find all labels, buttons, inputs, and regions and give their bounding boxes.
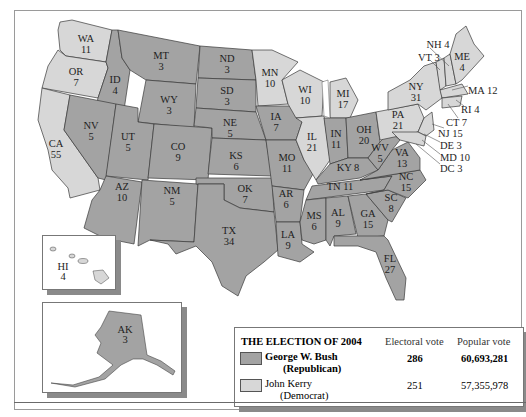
legend-col-popular: Popular vote bbox=[457, 336, 510, 347]
legend-title: THE ELECTION OF 2004 bbox=[241, 336, 362, 347]
election-legend: THE ELECTION OF 2004 Electoral vote Popu… bbox=[234, 327, 524, 407]
svg-text:AZ10: AZ10 bbox=[115, 181, 129, 203]
svg-text:CT 7: CT 7 bbox=[446, 117, 467, 128]
svg-text:NJ 15: NJ 15 bbox=[438, 128, 463, 139]
candidate-kerry-name: John Kerry bbox=[265, 378, 312, 390]
candidate-bush-name: George W. Bush bbox=[265, 351, 338, 363]
lake-michigan bbox=[322, 80, 330, 118]
svg-text:NH 4: NH 4 bbox=[426, 39, 450, 50]
svg-text:IN11: IN11 bbox=[330, 128, 341, 150]
svg-text:KY 8: KY 8 bbox=[337, 162, 360, 173]
svg-text:MA 12: MA 12 bbox=[468, 85, 497, 96]
svg-text:VT 3: VT 3 bbox=[418, 52, 440, 63]
svg-text:RI 4: RI 4 bbox=[461, 104, 480, 115]
bush-electoral-vote: 286 bbox=[407, 353, 423, 364]
hawaii-map: HI4 bbox=[43, 236, 115, 289]
svg-text:NC15: NC15 bbox=[399, 171, 414, 193]
candidate-bush-party: (Republican) bbox=[283, 363, 341, 375]
kerry-popular-vote: 57,355,978 bbox=[461, 380, 508, 391]
alaska-map: AK3 bbox=[43, 303, 181, 392]
svg-text:VA13: VA13 bbox=[395, 147, 409, 169]
hawaii-inset: HI4 bbox=[42, 235, 116, 290]
svg-text:HI4: HI4 bbox=[57, 261, 69, 282]
svg-text:FL27: FL27 bbox=[384, 253, 396, 275]
svg-text:IL21: IL21 bbox=[307, 131, 318, 153]
bush-popular-vote: 60,693,281 bbox=[461, 353, 508, 364]
svg-text:MD 10: MD 10 bbox=[440, 152, 470, 163]
svg-text:PA21: PA21 bbox=[392, 109, 405, 131]
legend-col-electoral: Electoral vote bbox=[385, 336, 444, 347]
svg-text:DC 3: DC 3 bbox=[440, 163, 462, 174]
candidate-kerry-party: (Democrat) bbox=[280, 390, 328, 402]
frame-divider bbox=[14, 402, 526, 403]
svg-text:TN 11: TN 11 bbox=[327, 181, 354, 192]
svg-text:WI10: WI10 bbox=[298, 84, 312, 106]
alaska-inset: AK3 bbox=[42, 302, 182, 393]
svg-text:DE 3: DE 3 bbox=[440, 140, 462, 151]
republican-swatch bbox=[240, 352, 262, 365]
svg-text:MI17: MI17 bbox=[337, 88, 350, 110]
democrat-swatch bbox=[240, 379, 262, 392]
kerry-electoral-vote: 251 bbox=[407, 380, 423, 391]
